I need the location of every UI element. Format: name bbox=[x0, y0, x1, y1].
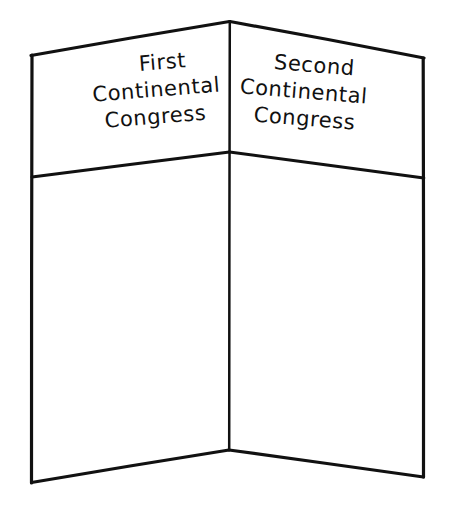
center-fold-line bbox=[229, 22, 230, 451]
left-panel-body[interactable] bbox=[34, 182, 226, 448]
right-panel-body[interactable] bbox=[234, 182, 422, 446]
right-panel-header: Second Continental Congress bbox=[233, 46, 429, 142]
left-panel-outer-edge bbox=[32, 55, 33, 483]
left-panel-header: First Continental Congress bbox=[31, 44, 229, 140]
foldable-figure: First Continental Congress Second Contin… bbox=[0, 0, 452, 512]
